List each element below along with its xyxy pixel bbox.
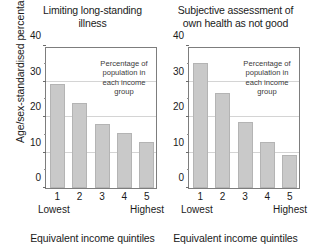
y-tick-mark [186,45,189,46]
chart-panel-right: Subjective assessment of own health as n… [167,2,304,244]
x-tick-label: 1 [54,191,60,202]
panel-title-left-line2: illness [78,17,106,29]
y-tick-label: 10 [30,136,46,147]
y-tick-minor [187,98,189,99]
y-tick-minor [44,98,46,99]
y-tick-minor [187,134,189,135]
bar [50,84,65,188]
bar [238,122,253,188]
bars-left [46,48,156,188]
y-tick-mark [43,45,46,46]
x-axis-lowest-label: Lowest [181,204,213,215]
y-tick-label: 30 [173,65,189,76]
y-tick-minor [187,63,189,64]
bar [117,133,132,188]
panel-title-right: Subjective assessment of own health as n… [167,4,304,29]
y-tick-minor [44,134,46,135]
y-tick-mark [43,187,46,188]
y-tick-label: 40 [173,30,189,41]
bar [72,103,87,188]
bar [282,155,297,188]
y-tick-label: 20 [173,101,189,112]
y-tick-mark [186,81,189,82]
y-tick-label: 30 [30,65,46,76]
y-tick-label: 40 [30,30,46,41]
x-tick-label: 4 [122,191,128,202]
y-tick-label: 0 [178,172,189,183]
y-tick-minor [44,169,46,170]
y-tick-mark [186,116,189,117]
y-tick-mark [186,187,189,188]
panel-title-right-line2: own health as not good [183,17,288,29]
y-tick-label: 20 [30,101,46,112]
y-tick-mark [43,116,46,117]
x-axis-label-right: Equivalent income quintiles [167,232,304,244]
bar [193,63,208,188]
x-tick-label: 4 [265,191,271,202]
figure: Age/sex-standardised percentage Limiting… [0,0,314,246]
bar [95,124,110,188]
x-tick-label: 2 [220,191,226,202]
x-axis-highest-label: Highest [273,204,307,215]
x-axis-highest-label: Highest [130,204,164,215]
x-tick-label: 1 [197,191,203,202]
chart-panel-left: Limiting long-standing illness Percentag… [24,2,161,244]
panel-title-right-line1: Subjective assessment of [178,4,293,16]
y-tick-label: 0 [35,172,46,183]
bar [260,142,275,188]
y-tick-minor [44,63,46,64]
x-tick-label: 2 [77,191,83,202]
y-tick-mark [43,81,46,82]
y-tick-minor [187,169,189,170]
panel-title-left-line1: Limiting long-standing [43,4,142,16]
x-tick-label: 5 [287,191,293,202]
plot-area-right: Percentage of population in each income … [188,47,300,189]
bar [139,142,154,188]
x-tick-label: 5 [144,191,150,202]
x-axis-label-left: Equivalent income quintiles [24,232,161,244]
plot-area-left: Percentage of population in each income … [45,47,157,189]
bar [215,93,230,188]
x-tick-label: 3 [99,191,105,202]
x-axis-lowest-label: Lowest [38,204,70,215]
y-tick-label: 10 [173,136,189,147]
panel-title-left: Limiting long-standing illness [24,4,161,29]
bars-right [189,48,299,188]
y-tick-mark [43,152,46,153]
y-tick-mark [186,152,189,153]
x-tick-label: 3 [242,191,248,202]
